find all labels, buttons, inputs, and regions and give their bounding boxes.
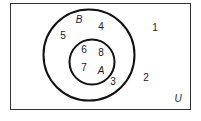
set-b-circle (44, 10, 135, 101)
venn-diagram (0, 0, 201, 121)
set-b-label: B (76, 15, 83, 25)
set-a-label: A (98, 66, 105, 76)
element-1: 1 (152, 23, 158, 33)
element-7: 7 (81, 63, 87, 73)
element-3: 3 (110, 77, 116, 87)
universe-label: U (174, 94, 181, 104)
element-8: 8 (98, 48, 104, 58)
element-4: 4 (98, 22, 104, 32)
element-5: 5 (60, 31, 66, 41)
element-2: 2 (143, 73, 149, 83)
element-6: 6 (81, 45, 87, 55)
set-a-circle (70, 40, 115, 85)
